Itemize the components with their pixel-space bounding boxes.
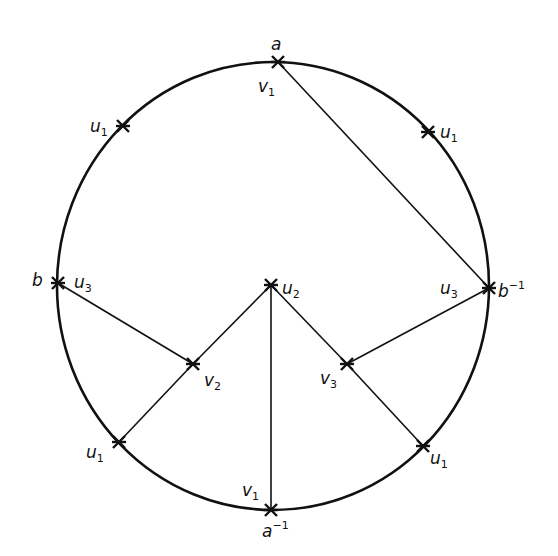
vertex-mark-u1_bl bbox=[112, 436, 126, 448]
label-b-u3: u3 bbox=[74, 274, 92, 294]
label-u2: u2 bbox=[282, 280, 300, 300]
edge-v3-u1_br bbox=[347, 364, 423, 446]
label-a-v1: v1 bbox=[258, 78, 275, 98]
vertex-mark-u1_br bbox=[416, 440, 430, 452]
diagram: a v1 u1 u1 b u3 u2 u3 b−1 v2 v3 u1 u1 v1… bbox=[0, 0, 558, 556]
vertex-mark-u1_tl bbox=[116, 120, 130, 132]
edge-b-v2 bbox=[58, 283, 193, 364]
vertex-mark-a bbox=[271, 56, 285, 68]
label-u1-bottom-left: u1 bbox=[86, 444, 104, 464]
label-u1-top-left: u1 bbox=[90, 118, 108, 138]
vertex-marks bbox=[51, 56, 496, 516]
edge-a-b_inv bbox=[278, 62, 489, 288]
edge-v2-u1_bl bbox=[119, 364, 193, 442]
label-b-inv-u3: u3 bbox=[440, 280, 458, 300]
label-u1-top-right: u1 bbox=[440, 124, 458, 144]
label-v3: v3 bbox=[320, 370, 337, 390]
label-a-inverse: a−1 bbox=[262, 520, 289, 540]
label-a: a bbox=[271, 36, 281, 53]
label-u1-bottom-right: u1 bbox=[430, 450, 448, 470]
edge-v2-u2 bbox=[193, 285, 271, 364]
label-b: b bbox=[32, 272, 43, 289]
label-a-inv-v1: v1 bbox=[242, 482, 259, 502]
vertex-mark-u1_tr bbox=[421, 126, 435, 138]
label-b-inverse: b−1 bbox=[498, 280, 525, 300]
vertex-mark-v2 bbox=[186, 358, 200, 370]
vertex-mark-v3 bbox=[340, 358, 354, 370]
label-v2: v2 bbox=[204, 372, 221, 392]
edge-v3-b_inv bbox=[347, 288, 489, 364]
